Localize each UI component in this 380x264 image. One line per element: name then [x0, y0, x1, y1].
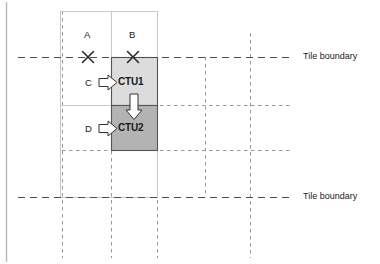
diagram-canvas	[0, 0, 380, 264]
neighbor-label-a: A	[84, 30, 90, 40]
side-label-d: D	[85, 124, 92, 134]
ctu-grid-dashed	[62, 11, 290, 258]
ctu2-label: CTU2	[118, 123, 143, 133]
tile-boundary-label-bottom: Tile boundary	[303, 192, 357, 201]
neighbor-label-b: B	[129, 30, 135, 40]
side-label-c: C	[85, 78, 92, 88]
ctu-tile-boundary-diagram	[0, 0, 380, 264]
tile-boundary-label-top: Tile boundary	[303, 52, 357, 61]
ctu1-label: CTU1	[118, 77, 143, 87]
